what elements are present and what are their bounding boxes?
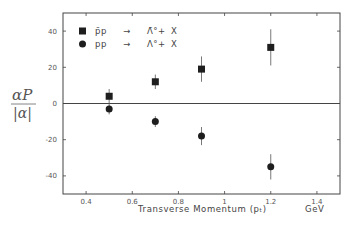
x-tick-label: 0.6 xyxy=(127,198,139,206)
square-marker xyxy=(106,93,113,100)
legend-square-icon xyxy=(79,28,86,35)
circle-marker xyxy=(198,133,205,140)
legend-entry-text: pp xyxy=(95,39,107,49)
y-axis-label-denominator: |α| xyxy=(13,105,32,122)
legend-entry-text: → xyxy=(123,26,131,36)
data-series xyxy=(106,29,275,179)
axis-labels: Transverse Momentum (pₜ) GeV αP |α| xyxy=(11,86,324,214)
legend-entry-text: X xyxy=(171,26,177,36)
x-tick-label: 1.2 xyxy=(265,198,276,206)
legend-entry-text: Λ° xyxy=(147,39,158,49)
legend-entry-text: → xyxy=(123,39,131,49)
legend-circle-icon xyxy=(79,41,86,48)
series-antilambda xyxy=(106,29,275,103)
x-axis-unit: GeV xyxy=(305,204,324,214)
legend-entry-text: X xyxy=(171,39,177,49)
y-tick-label: 20 xyxy=(48,64,57,72)
legend-entry-text: + xyxy=(158,26,166,36)
x-axis-label: Transverse Momentum (pₜ) xyxy=(137,204,267,214)
x-tick-label: 0.4 xyxy=(81,198,93,206)
circle-marker xyxy=(152,118,159,125)
y-tick-label: 0 xyxy=(53,100,57,108)
square-marker xyxy=(152,78,159,85)
legend: p̄p→Λ̄°+Xpp→Λ°+X xyxy=(79,26,177,49)
y-tick-label: 40 xyxy=(48,28,57,36)
y-axis-label-numerator: αP xyxy=(12,86,33,104)
polarization-chart: 0.40.60.811.21.4 40200-20-40 p̄p→Λ̄°+Xpp… xyxy=(0,0,358,228)
series-lambda xyxy=(106,104,275,180)
x-axis-ticks: 0.40.60.811.21.4 xyxy=(81,13,324,206)
square-marker xyxy=(198,66,205,73)
square-marker xyxy=(267,44,274,51)
circle-marker xyxy=(106,105,113,112)
legend-entry-text: Λ̄° xyxy=(147,26,158,36)
legend-entry-text: + xyxy=(158,39,166,49)
circle-marker xyxy=(267,163,274,170)
y-tick-label: -40 xyxy=(46,172,57,180)
legend-entry-text: p̄p xyxy=(95,26,107,36)
y-tick-label: -20 xyxy=(46,136,57,144)
